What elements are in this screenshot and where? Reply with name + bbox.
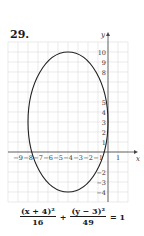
fraction-1-numerator: (x + 4)² (20, 206, 56, 217)
svg-text:−8: −8 (23, 154, 33, 162)
tick-labels: −9−8−7−6−5−4−3−2−11109854321−2−3−4 (13, 49, 120, 197)
x-axis-label: x (136, 155, 140, 163)
svg-text:1: 1 (116, 154, 120, 162)
svg-text:−5: −5 (53, 154, 63, 162)
svg-text:−3: −3 (96, 179, 106, 187)
fraction-2-denominator: 49 (83, 217, 94, 227)
plus-sign: + (60, 212, 67, 222)
svg-text:4: 4 (102, 109, 106, 117)
svg-text:8: 8 (102, 69, 106, 77)
svg-text:3: 3 (102, 119, 106, 127)
svg-text:2: 2 (102, 129, 106, 137)
y-axis-label: y (100, 31, 106, 39)
equals-one: = 1 (110, 212, 125, 222)
svg-text:−4: −4 (96, 189, 106, 197)
svg-text:10: 10 (98, 49, 106, 57)
svg-text:−9: −9 (13, 154, 23, 162)
svg-text:−2: −2 (83, 154, 93, 162)
grid (8, 42, 128, 202)
svg-text:−3: −3 (73, 154, 83, 162)
svg-text:9: 9 (102, 59, 106, 67)
svg-text:5: 5 (102, 99, 106, 107)
fraction-1: (x + 4)² 16 (20, 206, 56, 227)
ellipse-equation: (x + 4)² 16 + (y − 3)² 49 = 1 (18, 206, 127, 227)
svg-text:−6: −6 (43, 154, 53, 162)
svg-text:−4: −4 (63, 154, 73, 162)
ellipse-graph: xy −9−8−7−6−5−4−3−2−11109854321−2−3−4 (0, 0, 144, 236)
fraction-2-numerator: (y − 3)² (70, 206, 106, 217)
fraction-2: (y − 3)² 49 (70, 206, 106, 227)
fraction-1-denominator: 16 (32, 217, 43, 227)
